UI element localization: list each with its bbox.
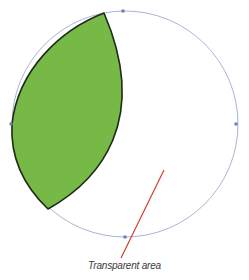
transparency-diagram [0, 0, 249, 280]
leader-line [121, 170, 164, 258]
anchor-point-top [122, 10, 125, 13]
anchor-point-right [235, 123, 238, 126]
anchor-point-left [10, 123, 13, 126]
transparent-area-label: Transparent area [0, 260, 249, 271]
anchor-point-bottom [124, 236, 127, 239]
green-filled-shape [12, 13, 122, 209]
